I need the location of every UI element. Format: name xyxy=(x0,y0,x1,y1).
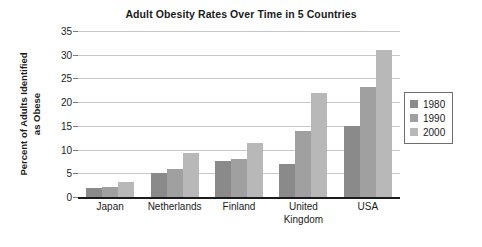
plot-area: 05101520253035 xyxy=(78,31,400,197)
y-tick-label: 35 xyxy=(61,26,72,37)
legend-label: 2000 xyxy=(423,127,445,138)
bar xyxy=(311,93,327,197)
x-axis-label-line: United xyxy=(271,200,335,213)
bar xyxy=(376,50,392,197)
legend-swatch xyxy=(410,114,418,122)
legend-item[interactable]: 2000 xyxy=(410,125,445,139)
bar xyxy=(167,169,183,197)
legend-swatch xyxy=(410,100,418,108)
bar-group xyxy=(142,31,206,197)
y-tick-label: 5 xyxy=(66,168,72,179)
bar xyxy=(118,182,134,197)
y-axis-title: Percent of Adults Identified as Obese xyxy=(14,30,46,198)
x-axis-label-line: Kingdom xyxy=(271,213,335,226)
legend-item[interactable]: 1990 xyxy=(410,111,445,125)
chart-title: Adult Obesity Rates Over Time in 5 Count… xyxy=(0,8,482,20)
bar xyxy=(279,164,295,197)
bar xyxy=(247,143,263,197)
bar-group xyxy=(336,31,400,197)
bar xyxy=(151,173,167,197)
bar xyxy=(86,188,102,197)
x-axis-label-line: Finland xyxy=(207,200,271,213)
bar xyxy=(344,126,360,197)
chart-figure: Adult Obesity Rates Over Time in 5 Count… xyxy=(0,0,482,247)
legend-swatch xyxy=(410,128,418,136)
x-axis-label: Finland xyxy=(207,200,271,213)
y-axis-title-line-2: as Obese xyxy=(31,93,42,135)
legend-label: 1990 xyxy=(423,113,445,124)
x-axis-label-line: USA xyxy=(336,200,400,213)
bar xyxy=(102,187,118,197)
x-axis-label-line: Netherlands xyxy=(142,200,206,213)
bar xyxy=(215,161,231,197)
y-tick-label: 10 xyxy=(61,144,72,155)
bar-group xyxy=(207,31,271,197)
x-axis-line xyxy=(78,197,400,199)
y-axis-title-line-1: Percent of Adults Identified xyxy=(18,52,29,175)
bar-group xyxy=(271,31,335,197)
bar-group xyxy=(78,31,142,197)
x-axis-labels: JapanNetherlandsFinlandUnitedKingdomUSA xyxy=(78,200,400,244)
x-axis-label-line: Japan xyxy=(78,200,142,213)
legend-label: 1980 xyxy=(423,99,445,110)
bar xyxy=(360,87,376,198)
x-axis-label: Netherlands xyxy=(142,200,206,213)
y-tick-label: 20 xyxy=(61,97,72,108)
bars-layer xyxy=(78,31,400,197)
y-tick-label: 0 xyxy=(66,192,72,203)
y-tick-label: 25 xyxy=(61,73,72,84)
x-axis-label: USA xyxy=(336,200,400,213)
y-tick-label: 15 xyxy=(61,120,72,131)
bar xyxy=(295,131,311,197)
bar xyxy=(183,153,199,197)
y-tick-label: 30 xyxy=(61,49,72,60)
legend: 198019902000 xyxy=(404,92,453,144)
x-axis-label: UnitedKingdom xyxy=(271,200,335,226)
legend-item[interactable]: 1980 xyxy=(410,97,445,111)
x-axis-label: Japan xyxy=(78,200,142,213)
bar xyxy=(231,159,247,197)
